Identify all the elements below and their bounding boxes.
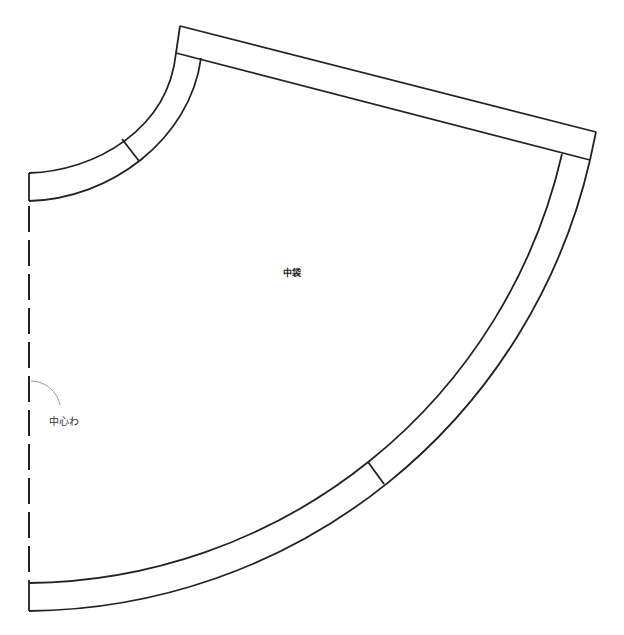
side-seam-inner-line bbox=[176, 53, 590, 160]
side-band-right-edge bbox=[590, 132, 596, 160]
piece-name-label: 中袋 bbox=[283, 266, 301, 279]
hem-notch bbox=[368, 462, 384, 484]
neckline-inner-curve bbox=[29, 58, 201, 201]
neckline-outer-curve bbox=[29, 26, 180, 173]
side-seam-outer-line bbox=[180, 26, 596, 132]
neckline-notch bbox=[122, 139, 139, 161]
fold-indicator-arc bbox=[31, 381, 60, 405]
pattern-piece-diagram bbox=[0, 0, 624, 635]
hem-inner-arc bbox=[29, 154, 562, 583]
fold-line-label: 中心わ bbox=[49, 413, 79, 428]
hem-outer-arc bbox=[29, 160, 590, 611]
